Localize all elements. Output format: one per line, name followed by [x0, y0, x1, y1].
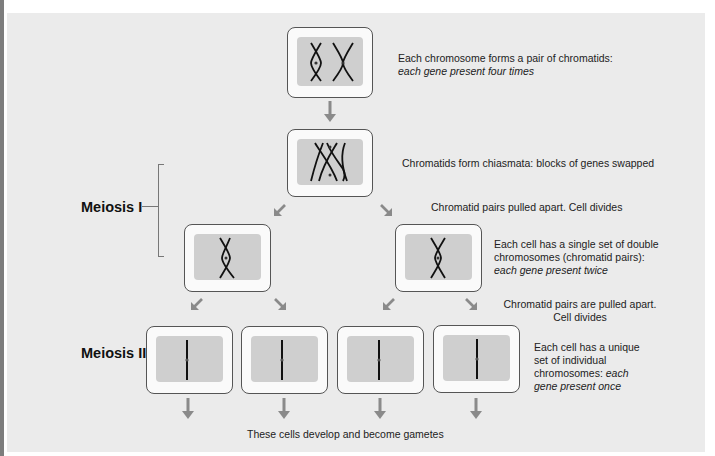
annotation-text: chromosomes (chromatid pairs):: [494, 251, 694, 264]
annotation-text: Each cell has a unique: [534, 341, 674, 354]
annotation-pulled-apart-2: Chromatid pairs are pulled apart. Cell d…: [490, 298, 670, 324]
single-chromatid-icon: [347, 336, 414, 382]
cell-gamete-3: [337, 326, 424, 394]
arrow-down-icon: [470, 398, 482, 420]
annotation-text: set of individual: [534, 354, 674, 367]
arrow-down-icon: [324, 101, 336, 123]
cell-gamete-nucleus: [347, 336, 414, 382]
annotation-text: These cells develop and become gametes: [247, 428, 507, 441]
cell-gamete-nucleus: [156, 336, 223, 382]
annotation-italic-text: each gene present twice: [494, 264, 694, 277]
bracket-bottom-tick: [158, 256, 164, 257]
meiosis-1-label: Meiosis I: [81, 199, 142, 215]
arrow-down-right-icon: [379, 203, 393, 217]
cell-meiosis1-left-nucleus: [194, 234, 261, 280]
arrow-down-icon: [374, 398, 386, 420]
cell-parent-nucleus: [297, 37, 363, 86]
arrow-down-left-icon: [382, 297, 396, 311]
annotation-single-set: Each cell has a single set of double chr…: [494, 238, 694, 277]
single-chromatid-icon: [251, 336, 318, 382]
annotation-chromatid-pairs: Each chromosome forms a pair of chromati…: [398, 52, 658, 78]
annotation-mixed-line: chromosomes: each: [534, 367, 674, 380]
cell-gamete-4: [433, 325, 520, 393]
annotation-text: Cell divides: [490, 311, 670, 324]
arrow-down-right-icon: [273, 297, 287, 311]
annotation-gametes: These cells develop and become gametes: [247, 428, 507, 441]
arrow-down-left-icon: [273, 203, 287, 217]
annotation-text: Chromatid pairs are pulled apart.: [490, 298, 670, 311]
annotation-text: Chromatids form chiasmata: blocks of gen…: [402, 157, 682, 170]
annotation-text: Chromatid pairs pulled apart. Cell divid…: [431, 201, 681, 214]
cell-parent: [287, 27, 373, 98]
meiosis-2-label: Meiosis II: [81, 345, 146, 361]
annotation-chiasmata: Chromatids form chiasmata: blocks of gen…: [402, 157, 682, 170]
annotation-italic-text: each gene present four times: [398, 65, 658, 78]
cell-gamete-2: [241, 326, 328, 394]
cell-chiasmata-nucleus: [297, 139, 363, 185]
arrow-down-right-icon: [464, 297, 478, 311]
single-x-chromosome-icon: [194, 234, 261, 280]
cell-gamete-nucleus: [251, 336, 318, 382]
single-chromatid-icon: [156, 336, 223, 382]
cell-chiasmata: [287, 129, 373, 197]
arrow-down-left-icon: [190, 297, 204, 311]
single-x-chromosome-icon: [405, 234, 472, 280]
two-x-chromosomes-icon: [297, 37, 363, 86]
annotation-pulled-apart-1: Chromatid pairs pulled apart. Cell divid…: [431, 201, 681, 214]
meiosis-1-bracket: [158, 164, 159, 257]
crossed-chromatids-icon: [297, 139, 363, 185]
cell-meiosis1-left: [184, 224, 271, 292]
arrow-down-icon: [278, 398, 290, 420]
bracket-top-tick: [158, 164, 164, 165]
annotation-italic-text: gene present once: [534, 380, 674, 393]
cell-gamete-1: [146, 326, 233, 394]
arrow-down-icon: [182, 398, 194, 420]
cell-gamete-nucleus: [443, 335, 510, 381]
annotation-text: chromosomes:: [534, 367, 606, 379]
annotation-unique-set: Each cell has a unique set of individual…: [534, 341, 674, 393]
cell-meiosis1-right-nucleus: [405, 234, 472, 280]
annotation-text: Each chromosome forms a pair of chromati…: [398, 52, 658, 65]
cell-meiosis1-right: [395, 224, 482, 292]
single-chromatid-icon: [443, 335, 510, 381]
annotation-text: Each cell has a single set of double: [494, 238, 694, 251]
bracket-connector: [142, 206, 159, 207]
annotation-italic-text: each: [606, 367, 629, 379]
